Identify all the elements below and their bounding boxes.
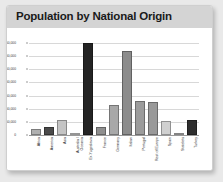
bar-slot [94,43,107,135]
y-axis-tick-label: 100,000 [6,107,16,111]
y-axis-tick-label: 200,000 [6,81,16,85]
bar[interactable] [44,127,54,135]
x-axis-label: France [103,137,107,171]
x-axis-label: America [50,137,54,171]
chart-card: Population by National Origin 350,000300… [6,5,213,171]
bar[interactable] [122,51,132,135]
x-axis-label: Portugal [142,137,146,171]
y-axis-tick-label: 150,000 [6,94,16,98]
y-axis-tick-label: 300,000 [6,55,16,59]
chart-axes: 350,000300,000250,000200,000150,000100,0… [29,43,199,135]
y-axis-tick-mark [26,56,28,57]
y-axis-tick-label: 350,000 [6,41,16,45]
bar[interactable] [96,127,106,135]
bar[interactable] [109,105,119,135]
bar[interactable] [70,133,80,135]
x-axis-label: Italian [129,137,133,171]
bar-slot [173,43,186,135]
x-axis-label: Spain [168,137,172,171]
bar-slot [55,43,68,135]
x-axis-label: Asia [63,137,67,171]
bar-series [29,43,199,135]
bar[interactable] [83,43,93,135]
bar-slot [68,43,81,135]
y-axis-tick-mark [26,69,28,70]
y-axis-tick-label: 0 [6,133,16,137]
bar[interactable] [187,120,197,135]
bar[interactable] [161,121,171,135]
bar-slot [29,43,42,135]
x-axis-label: Germany [116,137,120,171]
bar-slot [121,43,134,135]
y-axis-tick-mark [26,43,28,44]
bar[interactable] [148,102,158,135]
y-axis-tick-label: 250,000 [6,68,16,72]
bar-slot [147,43,160,135]
bar-slot [108,43,121,135]
y-axis-tick-mark [26,108,28,109]
bar[interactable] [174,133,184,135]
chart-title: Population by National Origin [16,10,172,22]
y-axis-tick-label: 50,000 [6,120,16,124]
bar[interactable] [31,129,41,135]
x-axis-label: Rest of Europe [155,137,159,171]
x-axis-label: Africa [37,137,41,171]
y-axis-tick-mark [26,135,28,136]
y-axis-tick-mark [26,82,28,83]
x-axis-label: Australia / Oceania [76,137,85,171]
y-axis-tick-mark [26,95,28,96]
x-axis-label: Ex-Yugoslavia [89,137,93,171]
x-axis-label: Statelets [181,137,185,171]
y-axis-tick-mark [26,121,28,122]
bar-slot [186,43,199,135]
gridline [29,135,199,136]
bar[interactable] [135,101,145,135]
x-axis-label: Turkey [194,137,198,171]
bar-slot [42,43,55,135]
chart-plot-area: 350,000300,000250,000200,000150,000100,0… [7,28,212,170]
bar-slot [81,43,94,135]
bar-slot [134,43,147,135]
bar[interactable] [57,120,67,135]
chart-title-bar: Population by National Origin [7,6,212,29]
bar-slot [160,43,173,135]
